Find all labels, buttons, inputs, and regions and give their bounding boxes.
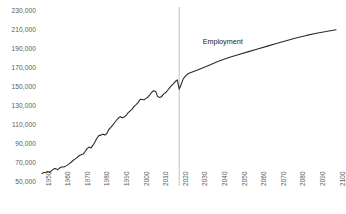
employment-annotation: Employment [203, 37, 243, 46]
employment-line [42, 30, 336, 174]
